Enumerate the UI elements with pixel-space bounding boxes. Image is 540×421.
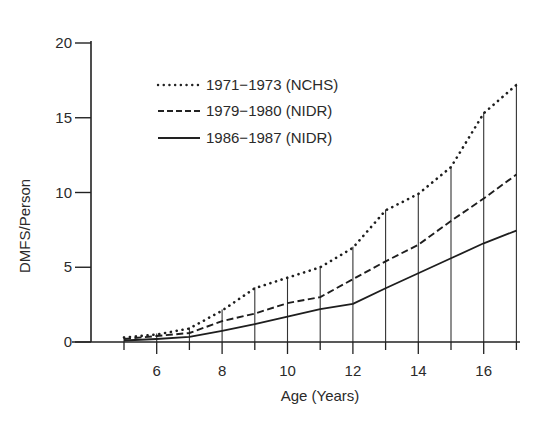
- y-tick-label: 20: [55, 34, 72, 51]
- x-tick-label: 12: [345, 362, 362, 379]
- legend-item-1986-1987: 1986−1987 (NIDR): [158, 129, 332, 146]
- legend-label: 1979−1980 (NIDR): [206, 102, 332, 119]
- legend-item-1979-1980: 1979−1980 (NIDR): [158, 102, 332, 119]
- y-tick-label: 10: [55, 184, 72, 201]
- y-tick-label: 5: [64, 258, 72, 275]
- x-tick-label: 14: [410, 362, 427, 379]
- x-tick-label: 16: [475, 362, 492, 379]
- x-tick-label: 6: [153, 362, 161, 379]
- y-tick-label: 0: [64, 333, 72, 350]
- chart: 05101520 6810121416 DMFS/Person Age (Yea…: [0, 0, 540, 421]
- x-tick-label: 8: [218, 362, 226, 379]
- legend-item-1971-1973: 1971−1973 (NCHS): [158, 76, 338, 93]
- x-axis-title: Age (Years): [281, 387, 360, 404]
- y-axis-title: DMFS/Person: [16, 179, 33, 273]
- legend-label: 1986−1987 (NIDR): [206, 129, 332, 146]
- x-ticks: 6810121416: [124, 342, 516, 379]
- drop-lines: [124, 84, 516, 342]
- y-ticks: 05101520: [55, 34, 91, 350]
- y-tick-label: 15: [55, 109, 72, 126]
- x-tick-label: 10: [279, 362, 296, 379]
- legend: 1971−1973 (NCHS) 1979−1980 (NIDR) 1986−1…: [158, 76, 338, 146]
- legend-label: 1971−1973 (NCHS): [206, 76, 338, 93]
